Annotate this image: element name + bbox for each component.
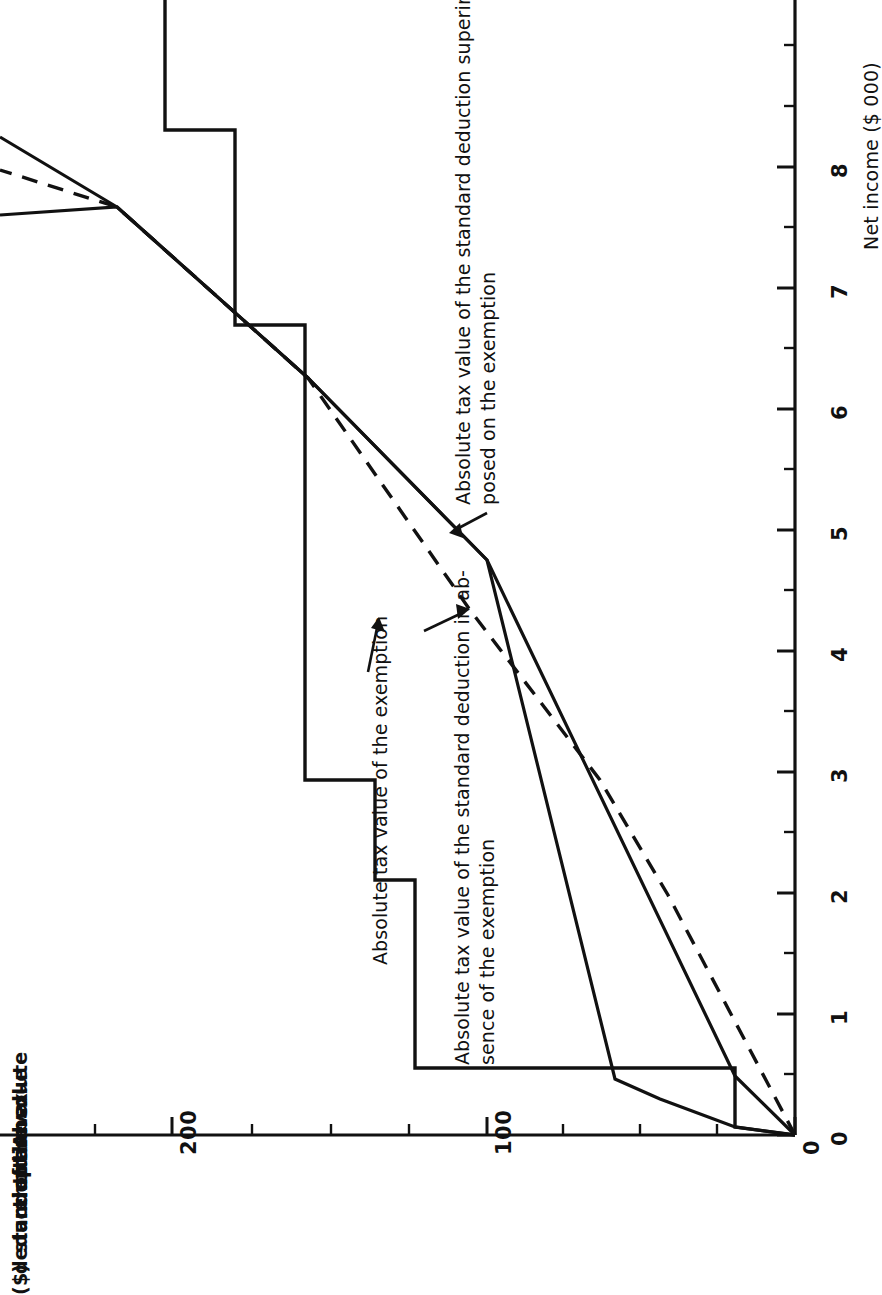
x-tick-label-5: 5: [828, 526, 852, 541]
sd-superimposed-annotation-line-1: Absolute tax value of the standard deduc…: [451, 0, 476, 505]
y-axis: [0, 1117, 795, 1135]
y-tick-label-100: 100: [492, 1110, 516, 1155]
exemption-annotation: Absolute tax value of the exemption: [368, 616, 393, 965]
series-sd-superimposed: [0, 137, 795, 1135]
x-axis-title: Net income ($ 000): [860, 62, 882, 250]
x-tick-label-1: 1: [828, 1010, 852, 1025]
x-tick-label-2: 2: [828, 889, 852, 904]
sd-superimposed-annotation-line-2: posed on the exemption: [476, 272, 501, 505]
x-tick-label-4: 4: [828, 647, 852, 662]
x-tick-label-3: 3: [828, 768, 852, 783]
y-tick-label-0: 0: [800, 1140, 824, 1155]
y-axis-title-line-7: ($): [10, 1264, 31, 1295]
y-tick-label-200: 200: [177, 1110, 201, 1155]
series-sd-absence: [0, 170, 795, 1135]
x-tick-label-7: 7: [828, 284, 852, 299]
x-tick-label-0: 0: [828, 1131, 852, 1146]
y-axis-title-line-6: deduction: [10, 1165, 31, 1274]
x-tick-label-8: 8: [828, 163, 852, 178]
sd-absence-annotation-line-2: sence of the exemption: [475, 839, 500, 1065]
sd-absence-annotation-line-1: Absolute tax value of the standard deduc…: [450, 570, 475, 1065]
x-tick-label-6: 6: [828, 405, 852, 420]
x-axis: [777, 0, 795, 1135]
